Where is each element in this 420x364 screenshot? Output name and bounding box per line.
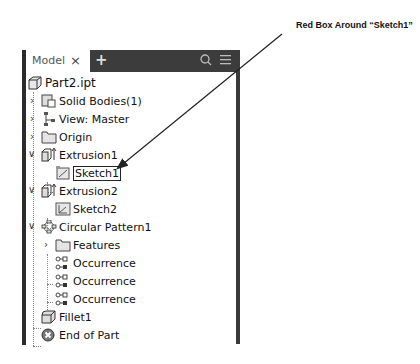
annotation-arrow [0,0,420,364]
